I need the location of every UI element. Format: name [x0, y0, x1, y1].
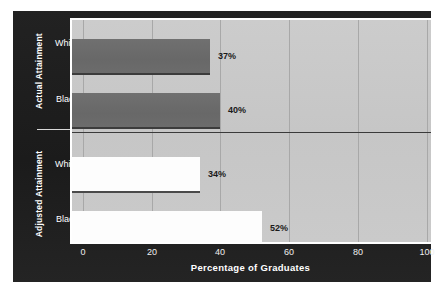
x-tick-80: 80	[353, 247, 363, 257]
x-tick-40: 40	[215, 247, 225, 257]
group-label-actual-attainment: Actual Attainment	[34, 18, 44, 124]
x-tick-0: 0	[80, 247, 85, 257]
group-label-adjusted-attainment: Adjusted Attainment	[34, 141, 44, 247]
gridline-80	[358, 20, 359, 242]
value-label-adjusted-white: 34%	[208, 169, 226, 179]
chart-figure: Actual Attainment Adjusted Attainment Wh…	[0, 0, 442, 294]
group-divider-strip	[37, 129, 70, 130]
x-axis-title: Percentage of Graduates	[70, 262, 431, 273]
x-tick-60: 60	[284, 247, 294, 257]
x-tick-20: 20	[147, 247, 157, 257]
x-axis-ticks: 0 20 40 60 80 100	[70, 247, 431, 261]
x-tick-100: 100	[419, 247, 434, 257]
gridline-100	[427, 20, 428, 242]
gridline-60	[289, 20, 290, 242]
bar-adjusted-white[interactable]	[72, 157, 200, 193]
value-label-actual-white: 37%	[218, 51, 236, 61]
bar-actual-white[interactable]	[72, 39, 210, 75]
plot-area: 37% 40% 34% 52%	[70, 18, 431, 244]
bar-actual-black[interactable]	[72, 93, 220, 129]
value-label-adjusted-black: 52%	[270, 223, 288, 233]
chart-panel: Actual Attainment Adjusted Attainment Wh…	[13, 11, 431, 282]
value-label-actual-black: 40%	[228, 105, 246, 115]
group-divider-line	[72, 132, 431, 133]
bar-adjusted-black[interactable]	[72, 211, 262, 244]
